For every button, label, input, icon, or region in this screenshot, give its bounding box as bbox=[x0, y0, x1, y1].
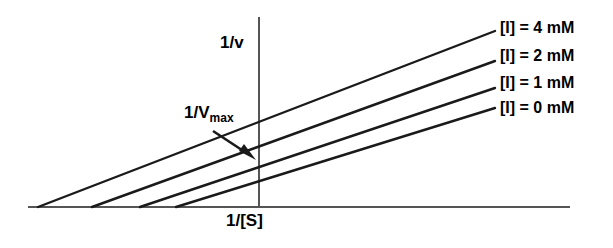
vmax-label-subscript: max bbox=[210, 111, 234, 125]
y-axis-label: 1/v bbox=[220, 34, 244, 51]
series-label-i4: [I] = 4 mM bbox=[500, 20, 574, 36]
series-label-i0: [I] = 0 mM bbox=[500, 100, 574, 116]
x-axis-label: 1/[S] bbox=[226, 212, 263, 229]
series-label-i1: [I] = 1 mM bbox=[500, 75, 574, 91]
series-line-i2 bbox=[92, 61, 495, 207]
vmax-arrow-head bbox=[239, 144, 256, 160]
lineweaver-burk-figure: 1/v 1/[S] 1/Vmax [I] = 4 mM [I] = 2 mM [… bbox=[0, 0, 613, 248]
plot-canvas bbox=[0, 0, 613, 248]
series-label-i2: [I] = 2 mM bbox=[500, 48, 574, 64]
vmax-annotation-label: 1/Vmax bbox=[184, 104, 234, 121]
series-lines-group bbox=[38, 31, 495, 207]
vmax-label-main: 1/V bbox=[184, 103, 210, 122]
series-line-i4 bbox=[38, 31, 495, 207]
